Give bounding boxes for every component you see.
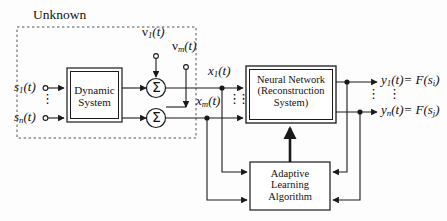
neural-network-line-2: (Reconstruction — [246, 85, 336, 96]
mixture-m-feedback-path — [207, 118, 247, 200]
noise-1-terminal — [154, 54, 159, 59]
neural-input-ellipsis: ⋮ — [237, 94, 246, 103]
mixture-1-label: x1(t) — [208, 64, 230, 77]
noise-m-label: νm(t) — [172, 39, 197, 52]
output-label-ellipsis: ⋮ — [388, 89, 397, 98]
diagram-vector-layer — [0, 0, 447, 221]
neural-network-line-3: System) — [246, 97, 336, 108]
summer-top-sigma: Σ — [148, 79, 165, 95]
neural-network-label: Neural Network (Reconstruction System) — [246, 74, 336, 108]
output-ellipsis: ⋮ — [367, 89, 376, 98]
source-1-label: s1(t) — [14, 80, 36, 93]
source-ellipsis: ⋮ — [41, 94, 50, 103]
mixture-tap-ellipsis: ⋮ — [228, 94, 237, 103]
source-1-terminal — [43, 86, 48, 91]
dynamic-system-label: Dynamic System — [67, 85, 122, 109]
neural-network-line-1: Neural Network — [246, 74, 336, 85]
adaptive-learning-label: Adaptive Learning Algorithm — [250, 168, 330, 202]
unknown-region-label: Unknown — [33, 8, 86, 22]
summer-bottom-sigma: Σ — [148, 109, 165, 125]
noise-m-terminal — [184, 65, 189, 70]
dynamic-system-line-2: System — [67, 97, 122, 109]
mixture-m-label: xm(t) — [196, 94, 220, 107]
output-1-label: y1(t)= F(si) — [381, 73, 440, 86]
source-n-label: sn(t) — [14, 110, 36, 123]
source-n-terminal — [43, 116, 48, 121]
adaptive-learning-line-2: Learning — [250, 179, 330, 190]
noise-1-label: ν1(t) — [142, 25, 165, 38]
output-n-label: yn(t)= F(sj) — [381, 103, 440, 116]
adaptive-learning-line-1: Adaptive — [250, 168, 330, 179]
block-diagram-figure: Unknown s1(t) sn(t) ν1(t) νm(t) x1(t) xm… — [0, 0, 447, 221]
adaptive-learning-line-3: Algorithm — [250, 191, 330, 202]
